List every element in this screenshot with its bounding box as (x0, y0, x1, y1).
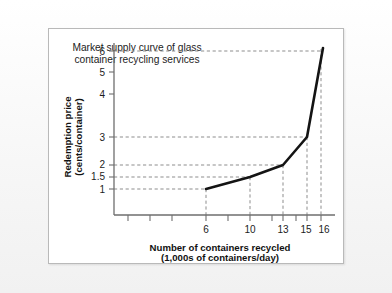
chart-title-line2: container recycling services (74, 54, 199, 65)
x-tick-label-10: 10 (244, 224, 256, 235)
chart-title-line1: Market supply curve of glass (72, 42, 201, 53)
y-tick-label-1p5: 1.5 (91, 171, 105, 182)
x-tick-label-13: 13 (277, 224, 289, 235)
x-axis-title-line2: (1,000s of containers/day) (161, 252, 279, 263)
x-tick-label-16: 16 (318, 224, 330, 235)
supply-curve-chart: Market supply curve of glass container r… (49, 29, 343, 263)
x-tick-label-6: 6 (203, 224, 209, 235)
y-tick-label-4: 4 (99, 89, 105, 100)
slide-canvas: Market supply curve of glass container r… (0, 0, 392, 293)
y-tick-label-1: 1 (99, 184, 105, 195)
chart-panel: Market supply curve of glass container r… (48, 28, 344, 264)
y-axis-title: Redemption price (cents/container) (62, 96, 84, 177)
x-tick-label-15: 15 (300, 224, 312, 235)
y-tick-label-6: 6 (99, 46, 105, 57)
y-tick-label-3: 3 (99, 132, 105, 143)
y-tick-label-5: 5 (99, 67, 105, 78)
supply-curve-line (206, 48, 323, 189)
y-tick-label-2: 2 (99, 159, 105, 170)
y-axis-title-line2: (cents/container) (73, 98, 84, 175)
y-axis-title-line1: Redemption price (62, 96, 73, 177)
